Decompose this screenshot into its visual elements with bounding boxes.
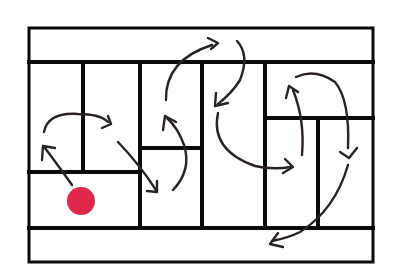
- arrow-curve: [293, 90, 303, 155]
- arrow-curve: [44, 114, 108, 132]
- path-arrow-step-5: [166, 38, 218, 100]
- path-arrow-step-10: [270, 165, 348, 247]
- arrowhead-icon: [163, 116, 176, 130]
- arrow-curve: [166, 45, 212, 100]
- path-arrow-step-6: [215, 41, 244, 106]
- arrowhead-icon: [283, 159, 293, 173]
- path-arrows: [42, 38, 357, 247]
- path-arrow-step-4: [163, 116, 186, 190]
- arrowhead-icon: [340, 148, 357, 158]
- path-arrow-step-2: [44, 114, 111, 132]
- path-arrow-step-1: [42, 146, 72, 185]
- floor-plan-svg: [0, 0, 400, 276]
- arrow-curve: [217, 113, 291, 168]
- arrow-curve: [167, 118, 186, 190]
- path-arrow-step-8: [286, 86, 303, 155]
- arrow-curve: [45, 148, 72, 185]
- floor-plan-diagram: [0, 0, 400, 276]
- start-marker-dot: [67, 187, 95, 215]
- arrow-curve: [296, 73, 348, 148]
- path-arrow-step-7: [217, 113, 293, 173]
- arrow-curve: [218, 41, 244, 104]
- arrowhead-icon: [208, 38, 218, 49]
- path-arrow-step-9: [296, 73, 357, 158]
